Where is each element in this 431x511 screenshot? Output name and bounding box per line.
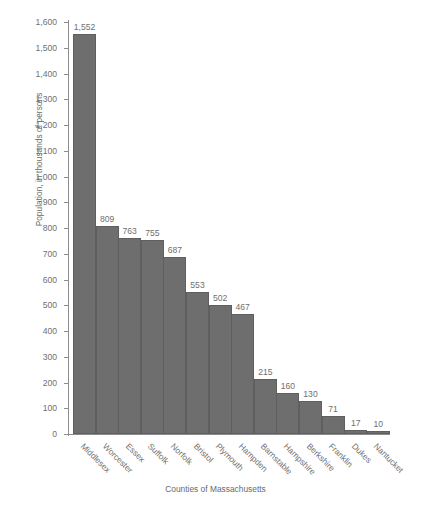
y-axis-tick-label: 100	[43, 403, 57, 413]
y-axis-tick-label: 900	[43, 197, 57, 207]
y-axis-tick: 1,300	[64, 99, 68, 100]
y-axis-tick-label: 1,000	[35, 172, 57, 182]
y-axis-tick-label: 1,100	[35, 146, 57, 156]
y-axis-tick-label: 300	[43, 352, 57, 362]
bar-value-label: 809	[100, 214, 114, 224]
x-axis-title: Counties of Massachusetts	[0, 484, 431, 494]
y-axis-tick: 300	[64, 357, 68, 358]
y-axis-tick-label: 400	[43, 326, 57, 336]
bar-chart: Population, in thousands of persons 0100…	[0, 0, 431, 511]
bar: 17	[344, 430, 367, 434]
y-axis-tick: 1,100	[64, 151, 68, 152]
y-axis-tick: 600	[64, 280, 68, 281]
bar-value-label: 467	[236, 302, 250, 312]
bar-value-label: 763	[123, 226, 137, 236]
bar-value-label: 687	[168, 245, 182, 255]
bar: 809	[96, 226, 119, 434]
bar: 130	[299, 401, 322, 434]
y-axis-tick: 1,500	[64, 48, 68, 49]
y-axis-tick: 500	[64, 305, 68, 306]
y-axis-tick: 900	[64, 202, 68, 203]
bar: 467	[231, 314, 254, 434]
y-axis-tick-label: 700	[43, 249, 57, 259]
y-axis-tick-label: 1,200	[35, 120, 57, 130]
bar-value-label: 502	[213, 293, 227, 303]
y-axis-tick-label: 800	[43, 223, 57, 233]
y-axis-tick: 1,200	[64, 125, 68, 126]
x-axis-tick-label: Norfolk	[169, 441, 195, 467]
y-axis-tick-label: 1,400	[35, 69, 57, 79]
x-axis-tick-label: Suffolk	[146, 441, 171, 466]
y-axis-tick: 700	[64, 254, 68, 255]
x-axis-line	[68, 434, 390, 435]
bar: 763	[118, 238, 141, 434]
bar: 553	[186, 292, 209, 434]
x-axis-tick-label: Bristol	[192, 441, 216, 465]
bar-value-label: 755	[145, 228, 159, 238]
bar-value-label: 130	[303, 389, 317, 399]
y-axis-tick: 800	[64, 228, 68, 229]
y-axis-tick-label: 600	[43, 275, 57, 285]
y-axis-tick-label: 500	[43, 300, 57, 310]
bar-value-label: 17	[351, 418, 361, 428]
bar-value-label: 553	[190, 280, 204, 290]
bar-value-label: 1,552	[74, 22, 96, 32]
bar: 10	[367, 431, 390, 434]
y-axis-tick: 0	[64, 434, 68, 435]
bar: 215	[254, 379, 277, 434]
bar: 1,552	[73, 34, 96, 434]
y-axis-tick: 400	[64, 331, 68, 332]
bar: 687	[163, 257, 186, 434]
y-axis-tick-label: 1,500	[35, 43, 57, 53]
y-axis-tick-label: 0	[52, 429, 57, 439]
y-axis-title: Population, in thousands of persons	[35, 45, 44, 275]
y-axis-tick-label: 1,600	[35, 17, 57, 27]
y-axis-tick-label: 1,300	[35, 94, 57, 104]
plot-area: 01002003004005006007008009001,0001,1001,…	[68, 22, 390, 434]
bar-value-label: 215	[258, 367, 272, 377]
y-axis-tick: 100	[64, 408, 68, 409]
bar: 502	[209, 305, 232, 434]
x-axis-tick-label: Nantucket	[372, 441, 406, 475]
y-axis-tick: 200	[64, 383, 68, 384]
bar: 160	[276, 393, 299, 434]
y-axis-tick: 1,000	[64, 177, 68, 178]
bar-value-label: 160	[281, 381, 295, 391]
y-axis-tick: 1,600	[64, 22, 68, 23]
bar: 755	[141, 240, 164, 434]
y-axis-tick-label: 200	[43, 378, 57, 388]
bar: 71	[322, 416, 345, 434]
bar-value-label: 10	[374, 419, 384, 429]
bar-value-label: 71	[328, 404, 338, 414]
y-axis-tick: 1,400	[64, 74, 68, 75]
